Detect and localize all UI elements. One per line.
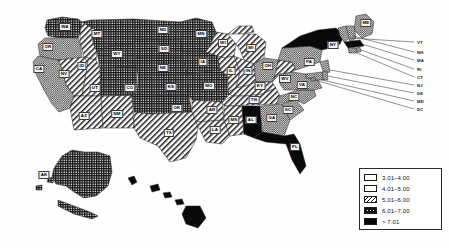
state-label-id: ID bbox=[77, 62, 86, 70]
legend-swatch-solid bbox=[364, 218, 377, 225]
state-label-fl: FL bbox=[290, 143, 300, 151]
legend-swatch-stipple bbox=[364, 185, 377, 192]
state-label-me: ME bbox=[360, 19, 371, 27]
state-label-tn: TN bbox=[249, 96, 260, 104]
legend-row-list: 3.01–4.004.01–5.005.01–6.006.01–7.00> 7.… bbox=[364, 172, 441, 227]
legend-row: 6.01–7.00 bbox=[364, 205, 441, 216]
legend-label: 4.01–5.00 bbox=[382, 186, 410, 192]
legend-label: 3.01–4.00 bbox=[382, 175, 410, 181]
legend-swatch-white bbox=[364, 174, 377, 181]
state-label-tx: TX bbox=[164, 129, 174, 137]
callout-label-ct: CT bbox=[417, 75, 423, 80]
state-label-ky: KY bbox=[255, 82, 266, 90]
legend-swatch-crosshatch bbox=[364, 207, 377, 214]
state-label-mo: MO bbox=[203, 82, 215, 90]
state-label-oh: OH bbox=[262, 62, 273, 70]
callout-label-nj: NJ bbox=[417, 83, 423, 88]
state-label-nm: NM bbox=[111, 110, 123, 118]
callout-label-nh: NH bbox=[417, 50, 424, 55]
state-label-ga: GA bbox=[266, 114, 277, 122]
state-label-in: IN bbox=[243, 67, 252, 75]
legend-label: > 7.01 bbox=[382, 219, 399, 225]
state-label-az: AZ bbox=[79, 112, 90, 120]
state-label-pa: PA bbox=[304, 58, 315, 66]
legend-row: 4.01–5.00 bbox=[364, 183, 441, 194]
us-choropleth-map-figure: WAORCANVIDMTWYUTAZNMCONDSDNEKSOKTXMNIAMO… bbox=[0, 0, 449, 248]
legend-label: 6.01–7.00 bbox=[382, 208, 410, 214]
legend-row: 3.01–4.00 bbox=[364, 172, 441, 183]
state-MA bbox=[344, 40, 364, 48]
state-OK bbox=[132, 95, 192, 114]
state-AK bbox=[36, 150, 112, 219]
legend-row: 5.01–6.00 bbox=[364, 194, 441, 205]
state-label-wy: WY bbox=[111, 50, 123, 58]
state-label-al: AL bbox=[246, 116, 257, 124]
state-CT bbox=[348, 48, 357, 53]
state-label-ut: UT bbox=[90, 84, 101, 92]
state-DC bbox=[311, 77, 315, 81]
callout-label-ma: MA bbox=[417, 58, 424, 63]
callout-label-de: DE bbox=[417, 91, 423, 96]
state-label-sd: SD bbox=[159, 45, 170, 53]
state-FL bbox=[254, 132, 306, 174]
legend-label: 5.01–6.00 bbox=[382, 197, 410, 203]
state-HI bbox=[128, 176, 206, 228]
state-label-nd: ND bbox=[157, 26, 168, 34]
state-label-ms: MS bbox=[228, 116, 239, 124]
state-label-mt: MT bbox=[91, 30, 102, 38]
legend-swatch-diagonal bbox=[364, 196, 377, 203]
legend-row: > 7.01 bbox=[364, 216, 441, 227]
state-KS bbox=[138, 74, 189, 96]
state-label-ak: AK bbox=[38, 171, 49, 179]
callout-label-dc: DC bbox=[417, 107, 424, 112]
state-TX bbox=[134, 112, 198, 162]
state-label-wv: WV bbox=[279, 75, 291, 83]
state-label-wi: WI bbox=[218, 39, 228, 47]
state-label-wa: WA bbox=[59, 23, 71, 31]
state-label-nc: NC bbox=[288, 93, 299, 101]
callout-label-vt: VT bbox=[417, 40, 423, 45]
state-label-mi: MI bbox=[246, 44, 256, 52]
callout-label-ri: RI bbox=[417, 67, 422, 72]
state-label-va: VA bbox=[297, 81, 308, 89]
state-label-sc: SC bbox=[283, 106, 294, 114]
state-label-ia: IA bbox=[198, 58, 207, 66]
state-label-ne: NE bbox=[158, 64, 169, 72]
state-label-co: CO bbox=[124, 84, 135, 92]
state-label-ks: KS bbox=[166, 83, 177, 91]
state-label-la: LA bbox=[210, 126, 221, 134]
state-label-ok: OK bbox=[171, 104, 182, 112]
map-legend: 3.01–4.004.01–5.005.01–6.006.01–7.00> 7.… bbox=[359, 168, 442, 230]
state-label-nv: NV bbox=[59, 70, 70, 78]
state-label-or: OR bbox=[42, 43, 53, 51]
state-label-ar: AR bbox=[206, 106, 217, 114]
state-label-ca: CA bbox=[33, 65, 44, 73]
callout-label-md: MD bbox=[417, 99, 424, 104]
state-label-mn: MN bbox=[195, 30, 207, 38]
state-label-ny: NY bbox=[328, 41, 339, 49]
state-label-il: IL bbox=[227, 67, 236, 75]
